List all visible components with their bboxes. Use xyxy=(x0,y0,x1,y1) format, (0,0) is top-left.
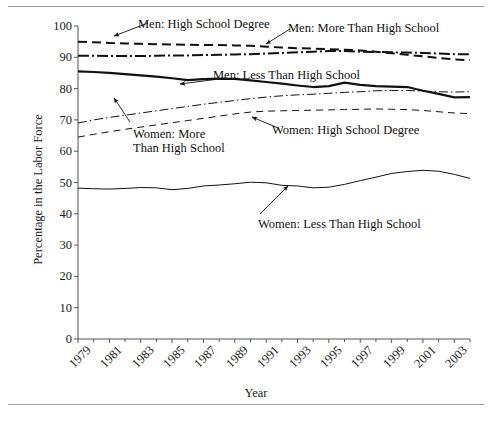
x-tick-label: 1995 xyxy=(317,343,345,371)
x-tick-label: 2003 xyxy=(443,343,471,371)
annotation-men-high-school-degree: Men: High School Degree xyxy=(138,18,270,32)
annotation-women-high-school-degree: Women: High School Degree xyxy=(272,124,419,138)
x-tick-label: 1981 xyxy=(98,343,126,371)
series-line-3 xyxy=(78,90,470,123)
leader-women-more-than-high-school xyxy=(114,98,130,122)
x-tick-label: 1983 xyxy=(129,343,157,371)
x-tick-label: 1997 xyxy=(349,343,377,371)
series-line-5 xyxy=(78,170,470,189)
x-tick-label: 2001 xyxy=(411,343,439,371)
y-tick-label: 70 xyxy=(60,112,73,127)
bottom-rule xyxy=(8,404,484,405)
x-tick-label: 1999 xyxy=(380,343,408,371)
y-tick-label: 90 xyxy=(60,50,73,65)
x-tick-label: 1991 xyxy=(254,343,282,371)
y-tick-label: 10 xyxy=(60,300,73,315)
annotation-line-1: Women: More xyxy=(133,127,205,141)
y-tick-label: 30 xyxy=(60,238,73,253)
x-axis-title-text: Year xyxy=(244,386,267,400)
x-tick-label: 1985 xyxy=(160,343,188,371)
leader-men-more-than-high-school xyxy=(266,29,290,44)
annotation-men-less-than-high-school: Men: Less Than High School xyxy=(213,69,360,83)
x-tick-label: 1993 xyxy=(286,343,314,371)
y-tick-label: 50 xyxy=(60,175,73,190)
x-axis-title: Year xyxy=(0,386,492,401)
x-tick-label: 1979 xyxy=(66,343,94,371)
series-line-1 xyxy=(78,51,470,56)
annotation-line-2: Than High School xyxy=(133,141,225,155)
y-tick-label: 0 xyxy=(66,332,72,347)
annotation-women-more-than-high-school: Women: MoreThan High School xyxy=(133,128,225,155)
series-line-0 xyxy=(78,42,470,60)
y-tick-label: 80 xyxy=(60,81,73,96)
figure: Percentage in the Labor Force 0102030405… xyxy=(0,0,492,424)
x-tick-label: 1987 xyxy=(192,343,220,371)
y-tick-label: 40 xyxy=(60,206,73,221)
y-tick-label: 100 xyxy=(53,19,72,34)
annotation-women-less-than-high-school: Women: Less Than High School xyxy=(258,218,421,232)
y-tick-label: 20 xyxy=(60,269,73,284)
y-tick-label: 60 xyxy=(60,144,73,159)
leader-women-less-than-high-school xyxy=(260,186,288,214)
y-axis-tick-labels: 0102030405060708090100 xyxy=(40,26,72,339)
x-tick-label: 1989 xyxy=(223,343,251,371)
top-rule xyxy=(8,6,484,7)
annotation-men-more-than-high-school: Men: More Than High School xyxy=(288,22,439,36)
